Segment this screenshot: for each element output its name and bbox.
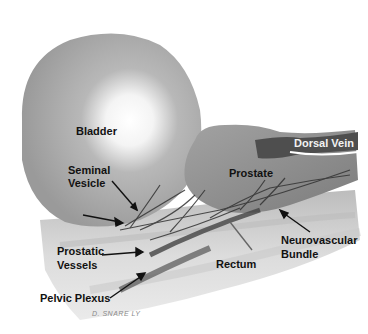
label-neurovascular-1: Neurovascular [281,234,357,247]
label-seminal-vesicle-2: Vesicle [68,177,105,190]
label-prostatic-vessels-1: Prostatic [57,245,104,258]
label-dorsal-vein: Dorsal Vein [294,137,354,150]
label-prostatic-vessels-2: Vessels [57,259,97,272]
label-prostate: Prostate [229,167,273,180]
illustration-artwork [0,0,368,334]
anatomy-illustration: Bladder Dorsal Vein Seminal Vesicle Pros… [0,0,368,334]
label-neurovascular-2: Bundle [281,248,318,261]
label-bladder: Bladder [76,125,117,138]
label-pelvic-plexus: Pelvic Plexus [40,292,110,305]
label-rectum: Rectum [216,258,256,271]
label-seminal-vesicle-1: Seminal [68,164,110,177]
artist-signature: D. SNARE LY [92,310,140,317]
